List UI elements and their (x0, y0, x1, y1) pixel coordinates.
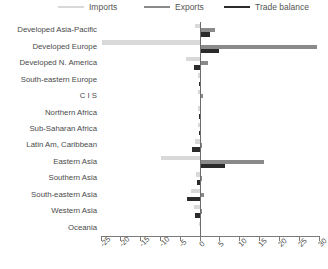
plot-area: Developed Asia-PacificDeveloped EuropeDe… (0, 22, 325, 236)
axis-tick-label: 20 (277, 237, 289, 249)
axis-tick-label: 0 (198, 240, 207, 249)
legend-label: Imports (89, 3, 117, 12)
axis-tick-label: 25 (297, 237, 309, 249)
bar-trade-balance (200, 49, 220, 53)
chart-row: C I S (0, 88, 325, 104)
chart-row: South-eastern Europe (0, 71, 325, 87)
chart-legend: ImportsExportsTrade balance (0, 0, 325, 14)
legend-swatch-icon (58, 6, 84, 8)
chart-row: Latin Am, Caribbean (0, 137, 325, 153)
legend-item-exports[interactable]: Exports (144, 0, 204, 14)
bar-group (0, 88, 325, 104)
axis-tick-label: 30 (317, 237, 328, 249)
bar-trade-balance (187, 197, 200, 201)
bar-group (0, 170, 325, 186)
bar-imports (186, 57, 200, 61)
chart-row: Western Asia (0, 203, 325, 219)
bar-group (0, 203, 325, 219)
bar-group (0, 55, 325, 71)
bar-group (0, 71, 325, 87)
bar-group (0, 220, 325, 236)
chart-row: Sub-Saharan Africa (0, 121, 325, 137)
legend-label: Trade balance (255, 3, 309, 12)
axis-tick-label: 5 (217, 240, 226, 249)
chart-row: Oceania (0, 220, 325, 236)
bar-trade-balance (200, 32, 210, 36)
bar-group (0, 104, 325, 120)
bar-imports (191, 189, 200, 193)
bar-trade-balance (200, 164, 225, 168)
bar-imports (161, 156, 200, 160)
legend-item-imports[interactable]: Imports (58, 0, 117, 14)
bar-group (0, 38, 325, 54)
legend-label: Exports (175, 3, 204, 12)
legend-item-trade-balance[interactable]: Trade balance (224, 0, 309, 14)
axis-tick-label: -5 (178, 238, 188, 248)
bar-group (0, 121, 325, 137)
bar-group (0, 22, 325, 38)
chart-row: Northern Africa (0, 104, 325, 120)
x-axis: -25-20-15-10-5051015202530 (0, 236, 325, 269)
bar-group (0, 137, 325, 153)
axis-tick-label: 15 (257, 237, 269, 249)
legend-swatch-icon (144, 6, 170, 8)
x-axis-line (101, 236, 319, 237)
chart-row: South-eastern Asia (0, 187, 325, 203)
zero-axis-line (200, 22, 201, 236)
chart-row: Developed Europe (0, 38, 325, 54)
legend-swatch-icon (224, 6, 250, 8)
bar-exports (200, 61, 209, 65)
bar-trade-balance (192, 147, 200, 151)
bar-group (0, 187, 325, 203)
chart-row: Developed Asia-Pacific (0, 22, 325, 38)
chart-row: Developed N. America (0, 55, 325, 71)
axis-tick-label: 10 (237, 237, 249, 249)
bar-group (0, 154, 325, 170)
chart-row: Southern Asia (0, 170, 325, 186)
chart-row: Eastern Asia (0, 154, 325, 170)
bar-imports (102, 40, 199, 44)
